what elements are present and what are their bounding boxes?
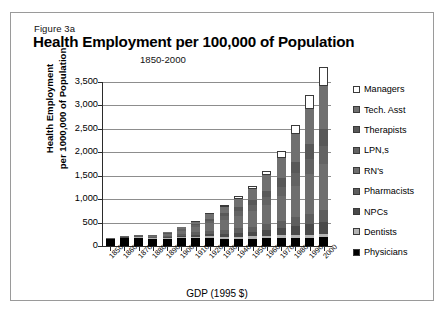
- bar-segment-pharmacists: [291, 217, 300, 226]
- bar-segment-lpn-s: [305, 159, 314, 174]
- bar-segment-physicians: [106, 239, 115, 246]
- bar-segment-pharmacists: [277, 221, 286, 228]
- bar-1940: [234, 196, 243, 246]
- legend-item-dentists: Dentists: [353, 222, 437, 242]
- bar-segment-managers: [305, 95, 314, 109]
- bar-1960: [262, 171, 271, 246]
- bar-segment-rn-s: [220, 220, 229, 230]
- bar-segment-rn-s: [234, 216, 243, 229]
- plot-area: [103, 82, 331, 246]
- legend-item-tech-asst: Tech. Asst: [353, 99, 437, 119]
- bar-segment-tech-asst: [234, 199, 243, 208]
- bar-1970: [277, 151, 286, 246]
- legend-swatch: [353, 228, 360, 235]
- legend-swatch: [353, 126, 360, 133]
- legend-label: Tech. Asst: [364, 105, 405, 115]
- y-axis-tick-mark: [98, 223, 102, 224]
- bar-segment-rn-s: [319, 164, 328, 210]
- legend-label: LPN,s: [364, 145, 389, 155]
- bar-1920: [205, 213, 214, 246]
- bar-segment-npcs: [277, 228, 286, 235]
- bar-2000: [319, 67, 328, 246]
- bar-segment-pharmacists: [305, 214, 314, 224]
- legend-label: Pharmacists: [364, 186, 414, 196]
- y-axis-tick-mark: [98, 82, 102, 83]
- bar-segment-managers: [291, 125, 300, 134]
- y-axis-tick-mark: [98, 105, 102, 106]
- bar-1980: [291, 125, 300, 246]
- bar-segment-npcs: [305, 224, 314, 235]
- y-axis-tick-mark: [98, 129, 102, 130]
- legend-label: Dentists: [364, 227, 397, 237]
- bar-segment-tech-asst: [277, 158, 286, 179]
- legend-item-physicians: Physicians: [353, 242, 437, 262]
- y-axis-tick-label: 2,500: [46, 123, 98, 133]
- legend-label: Physicians: [364, 247, 407, 257]
- legend-item-pharmacists: Pharmacists: [353, 181, 437, 201]
- bar-segment-managers: [319, 67, 328, 87]
- bar-1930: [220, 205, 229, 246]
- bar-segment-lpn-s: [262, 197, 271, 204]
- y-axis-tick-label: 1,500: [46, 170, 98, 180]
- legend-swatch: [353, 249, 360, 256]
- bar-segment-therapists: [277, 178, 286, 187]
- y-axis-tick-mark: [98, 199, 102, 200]
- bar-segment-rn-s: [248, 211, 257, 226]
- bar-segment-therapists: [305, 144, 314, 159]
- bar-segment-lpn-s: [291, 173, 300, 185]
- legend-label: Therapists: [364, 125, 406, 135]
- legend-label: NPCs: [364, 207, 388, 217]
- y-axis-tick-mark: [98, 176, 102, 177]
- chart-subtitle: 1850-2000: [140, 54, 186, 65]
- bar-segment-rn-s: [291, 186, 300, 218]
- bar-segment-tech-asst: [291, 134, 300, 162]
- y-axis-tick-label: 500: [46, 217, 98, 227]
- legend-item-npcs: NPCs: [353, 201, 437, 221]
- bar-segment-npcs: [291, 226, 300, 235]
- legend-item-managers: Managers: [353, 79, 437, 99]
- legend-swatch: [353, 208, 360, 215]
- gridline: [103, 105, 331, 106]
- y-axis-tick-label: 2,000: [46, 146, 98, 156]
- bar-1950: [248, 186, 257, 246]
- bar-segment-rn-s: [262, 205, 271, 225]
- bar-segment-therapists: [291, 162, 300, 173]
- x-axis-title: GDP (1995 $): [103, 288, 331, 299]
- bar-segment-lpn-s: [319, 146, 328, 164]
- bar-segment-lpn-s: [277, 187, 286, 197]
- bar-1990: [305, 95, 314, 246]
- y-axis-tick-label: 0: [46, 240, 98, 250]
- legend-swatch: [353, 147, 360, 154]
- bar-segment-tech-asst: [305, 109, 314, 145]
- bar-segment-tech-asst: [248, 189, 257, 200]
- legend-item-rn-s: RN's: [353, 161, 437, 181]
- bar-segment-rn-s: [205, 223, 214, 230]
- gridline: [103, 82, 331, 83]
- legend-item-therapists: Therapists: [353, 120, 437, 140]
- bar-segment-pharmacists: [319, 210, 328, 221]
- legend-label: RN's: [364, 166, 383, 176]
- legend-swatch: [353, 106, 360, 113]
- bar-1850: [106, 238, 115, 246]
- bar-segment-therapists: [319, 129, 328, 146]
- y-axis-line: [102, 82, 103, 247]
- y-axis-tick-mark: [98, 246, 102, 247]
- legend-swatch: [353, 86, 360, 93]
- bar-segment-rn-s: [305, 174, 314, 213]
- bar-segment-tech-asst: [262, 175, 271, 190]
- legend-label: Managers: [364, 84, 404, 94]
- bar-segment-npcs: [319, 222, 328, 234]
- y-axis-tick-labels: 05001,0001,5002,0002,5003,0003,500: [46, 0, 98, 325]
- y-axis-tick-label: 3,000: [46, 99, 98, 109]
- y-axis-tick-label: 1,000: [46, 193, 98, 203]
- y-axis-tick-mark: [98, 152, 102, 153]
- legend-swatch: [353, 188, 360, 195]
- bar-segment-rn-s: [277, 196, 286, 221]
- y-axis-tick-label: 3,500: [46, 76, 98, 86]
- legend-swatch: [353, 167, 360, 174]
- bar-segment-tech-asst: [319, 86, 328, 128]
- legend-item-lpn-s: LPN,s: [353, 140, 437, 160]
- chart-legend: ManagersTech. AsstTherapistsLPN,sRN'sPha…: [353, 79, 437, 263]
- bar-1900: [177, 227, 186, 246]
- bar-1910: [191, 221, 200, 246]
